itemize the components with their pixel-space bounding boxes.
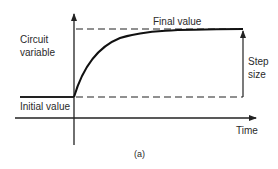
- y-axis-label-line1: Circuit: [20, 34, 48, 46]
- y-axis-label-line2: variable: [20, 47, 55, 59]
- initial-value-label: Initial value: [20, 101, 70, 113]
- figure-caption: (a): [134, 148, 145, 160]
- x-axis-label: Time: [236, 125, 258, 137]
- response-curve: [74, 29, 243, 97]
- step-response-diagram: Circuit variable Final value Initial val…: [0, 0, 278, 169]
- step-size-label-line1: Step: [248, 56, 269, 68]
- step-size-label-line2: size: [248, 69, 266, 81]
- diagram-canvas: [0, 0, 278, 169]
- final-value-label: Final value: [153, 16, 201, 28]
